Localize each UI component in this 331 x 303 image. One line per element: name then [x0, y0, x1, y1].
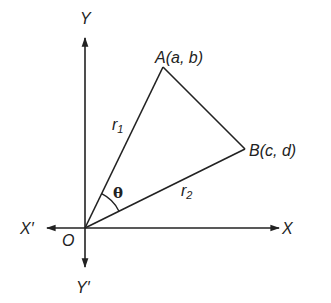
x-axis-negative-label: X′: [19, 220, 35, 237]
y-axis-negative-label: Y′: [76, 279, 91, 296]
segment-ab: [163, 67, 245, 149]
origin-label: O: [62, 232, 74, 249]
angle-theta-label: θ: [113, 184, 123, 202]
point-a-label: A(a, b): [154, 49, 203, 66]
x-axis-positive-label: X: [281, 220, 294, 237]
segment-ob-label: r2: [181, 182, 192, 201]
segment-ob: [85, 149, 245, 228]
segment-oa-label: r1: [112, 116, 123, 135]
diagram-canvas: Y Y′ X′ X O A(a, b) B(c, d) r1 r2 θ: [0, 0, 331, 303]
point-b-label: B(c, d): [249, 142, 296, 159]
segment-oa: [85, 67, 163, 228]
y-axis-positive-label: Y: [80, 10, 92, 27]
